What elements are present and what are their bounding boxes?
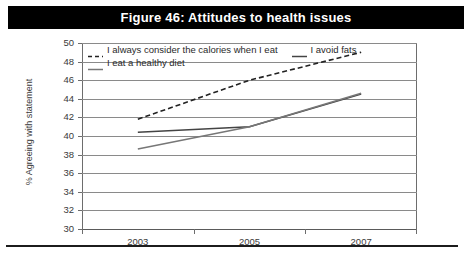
figure-title-banner: Figure 46: Attitudes to health issues <box>8 6 464 29</box>
y-axis-label: % Agreeing with statement <box>24 52 34 212</box>
figure-page: Figure 46: Attitudes to health issues % … <box>0 0 472 261</box>
dashed-line-marker <box>88 46 103 53</box>
x-axis-tick-mark <box>194 229 195 234</box>
chart-figure: % Agreeing with statement 50484644424038… <box>0 29 472 239</box>
plot-area: 200320052007 <box>82 43 417 229</box>
y-axis-tick-label: 38 <box>50 150 74 160</box>
x-axis-tick-mark <box>416 229 417 234</box>
x-axis-line <box>82 229 417 230</box>
y-axis-tick-label: 42 <box>50 112 74 122</box>
y-axis-tick-label: 40 <box>50 131 74 141</box>
y-axis-tick-label: 30 <box>50 224 74 234</box>
series-lines <box>82 43 417 229</box>
legend-item[interactable]: I eat a healthy diet <box>88 57 185 68</box>
series-line <box>138 93 361 149</box>
y-axis-tick-label: 36 <box>50 168 74 178</box>
page-title: Figure 46: Attitudes to health issues <box>121 10 352 25</box>
y-axis-tick-label: 32 <box>50 205 74 215</box>
y-axis-tick-label: 44 <box>50 94 74 104</box>
legend-item[interactable]: I always consider the calories when I ea… <box>88 44 278 55</box>
legend-label: I always consider the calories when I ea… <box>107 44 278 55</box>
legend-label: I eat a healthy diet <box>107 57 185 68</box>
y-axis-tick-label: 46 <box>50 75 74 85</box>
y-axis-tick-label: 50 <box>50 38 74 48</box>
legend-label: I avoid fats <box>311 44 357 55</box>
footer-rule <box>6 245 458 247</box>
y-axis-tick-label: 48 <box>50 57 74 67</box>
solid-line-marker <box>88 59 103 66</box>
legend-row: I always consider the calories when I ea… <box>88 43 328 56</box>
chart-legend: I always consider the calories when I ea… <box>88 43 328 69</box>
legend-item[interactable]: I avoid fats <box>292 44 357 55</box>
solid-line-marker <box>292 46 307 53</box>
x-axis-tick-mark <box>82 229 83 234</box>
x-axis-tick-mark <box>305 229 306 234</box>
y-axis-tick-label: 34 <box>50 187 74 197</box>
